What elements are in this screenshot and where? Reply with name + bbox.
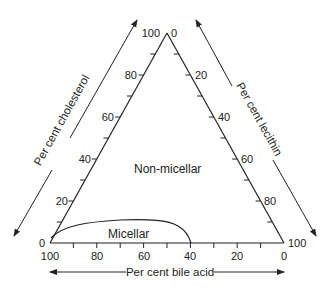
right-tick-20: 20 bbox=[195, 69, 207, 81]
left-axis-arrow-lower bbox=[14, 170, 52, 236]
right-axis-arrow-lower bbox=[273, 160, 316, 236]
left-tick-0: 0 bbox=[39, 237, 45, 249]
right-tick-100: 100 bbox=[288, 237, 306, 249]
triangle-frame bbox=[50, 33, 284, 243]
bottom-tick-100: 100 bbox=[41, 250, 59, 262]
ternary-diagram: 0 20 40 60 80 100 0 20 40 60 80 100 100 … bbox=[0, 0, 333, 292]
right-tick-40: 40 bbox=[218, 111, 230, 123]
right-tick-60: 60 bbox=[241, 153, 253, 165]
non-micellar-label: Non-micellar bbox=[134, 162, 201, 176]
bottom-axis-tick-labels: 100 80 60 40 20 0 bbox=[41, 250, 287, 262]
left-tick-100: 100 bbox=[142, 27, 160, 39]
micellar-label: Micellar bbox=[108, 227, 149, 241]
bottom-tick-60: 60 bbox=[138, 250, 150, 262]
left-tick-80: 80 bbox=[125, 69, 137, 81]
left-tick-40: 40 bbox=[79, 153, 91, 165]
bottom-tick-20: 20 bbox=[231, 250, 243, 262]
left-tick-20: 20 bbox=[56, 195, 68, 207]
bottom-tick-0: 0 bbox=[281, 250, 287, 262]
right-tick-80: 80 bbox=[264, 195, 276, 207]
bottom-axis-title: Per cent bile acid bbox=[126, 266, 214, 278]
bottom-tick-80: 80 bbox=[91, 250, 103, 262]
right-axis-title: Per cent lecithin bbox=[234, 80, 284, 157]
bottom-axis-ticks bbox=[73, 243, 260, 248]
left-axis-ticks bbox=[57, 54, 156, 222]
right-axis-ticks bbox=[174, 54, 273, 222]
right-axis-tick-labels: 0 20 40 60 80 100 bbox=[171, 27, 306, 249]
bottom-tick-40: 40 bbox=[184, 250, 196, 262]
left-tick-60: 60 bbox=[102, 111, 114, 123]
right-tick-0: 0 bbox=[171, 27, 177, 39]
